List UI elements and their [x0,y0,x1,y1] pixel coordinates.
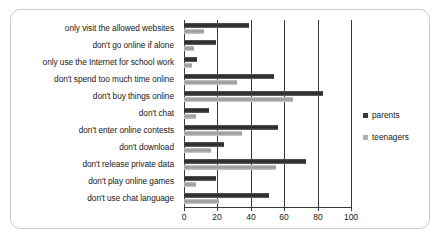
category-label: don't use chat language [13,190,179,207]
category-label: don't buy things online [13,88,179,105]
x-axis-tick [184,207,185,211]
bar-teenagers [184,80,237,85]
bar-group [184,173,351,190]
bar-parents [184,40,216,45]
bar-parents [184,91,323,96]
x-axis-tick-label: 40 [246,212,255,222]
legend-item-teenagers: teenagers [363,132,429,142]
legend-label: teenagers [372,132,409,142]
legend: parentsteenagers [363,110,429,154]
x-axis-tick-label: 80 [313,212,322,222]
bar-teenagers [184,148,211,153]
bar-parents [184,159,306,164]
bar-group [184,122,351,139]
x-axis-tick [251,207,252,211]
bar-parents [184,23,249,28]
bar-parents [184,74,274,79]
bar-parents [184,193,269,198]
bar-chart: only visit the allowed websitesdon't go … [11,10,431,230]
bar-teenagers [184,63,192,68]
bar-parents [184,142,224,147]
bar-group [184,20,351,37]
bar-group [184,156,351,173]
x-axis-tick-label: 20 [212,212,221,222]
bar-group [184,190,351,207]
bar-group [184,54,351,71]
x-axis-tick [284,207,285,211]
bar-group [184,139,351,156]
bar-teenagers [184,182,196,187]
x-axis-tick-label: 100 [344,212,358,222]
category-label: only visit the allowed websites [13,20,179,37]
bar-teenagers [184,46,194,51]
chart-card: only visit the allowed websitesdon't go … [10,9,430,229]
legend-label: parents [372,110,400,120]
category-label: don't download [13,139,179,156]
bar-group [184,105,351,122]
bar-parents [184,176,216,181]
category-axis-labels: only visit the allowed websitesdon't go … [13,20,179,207]
legend-item-parents: parents [363,110,429,120]
category-label: don't chat [13,105,179,122]
category-label: don't play online games [13,173,179,190]
category-label: only use the Internet for school work [13,54,179,71]
category-label: don't enter online contests [13,122,179,139]
x-axis-tick [318,207,319,211]
bar-group [184,88,351,105]
bar-teenagers [184,165,276,170]
bar-group [184,37,351,54]
bar-teenagers [184,29,204,34]
category-label: don't spend too much time online [13,71,179,88]
category-label: don't release private data [13,156,179,173]
category-label: don't go online if alone [13,37,179,54]
x-axis-tick [351,207,352,211]
x-axis-line [184,207,351,208]
bar-rows [184,20,351,207]
parents-swatch-icon [363,113,368,118]
x-axis-tick-label: 0 [182,212,187,222]
plot-area [184,20,351,207]
bar-parents [184,125,278,130]
gridline [351,20,352,207]
bar-parents [184,108,209,113]
bar-parents [184,57,197,62]
x-axis-tick [217,207,218,211]
x-axis-tick-label: 60 [279,212,288,222]
bar-teenagers [184,199,219,204]
bar-teenagers [184,97,293,102]
bar-teenagers [184,131,242,136]
bar-group [184,71,351,88]
teenagers-swatch-icon [363,135,368,140]
bar-teenagers [184,114,196,119]
